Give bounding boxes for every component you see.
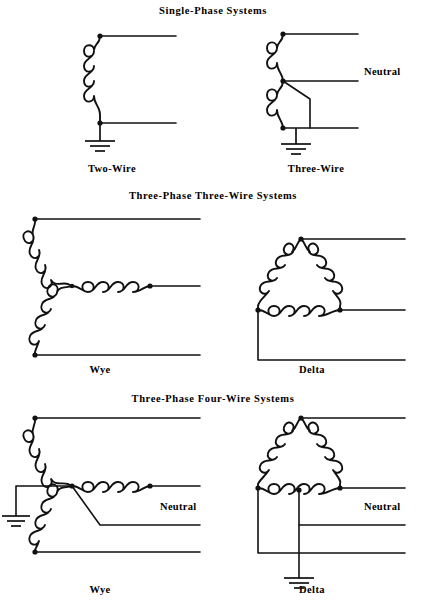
diagram-delta-three-wire (255, 236, 405, 360)
coil-winding-lower-left (29, 484, 72, 552)
label-neutral-single-phase: Neutral (364, 66, 401, 77)
caption-wye-three-wire: Wye (60, 364, 140, 375)
caption-delta-three-wire: Delta (272, 364, 352, 375)
coil-winding-upper-left (23, 219, 72, 288)
label-neutral-delta-four-wire: Neutral (364, 501, 401, 512)
schematic-artwork (0, 0, 426, 615)
coil-winding-right-side (301, 239, 342, 310)
diagram-three-wire (267, 31, 358, 154)
terminal-dot-line2 (147, 283, 152, 288)
terminal-dot-apex (298, 236, 303, 241)
terminal-dot-left-vertex (255, 307, 260, 312)
section-title-three-phase-four-wire: Three-Phase Four-Wire Systems (0, 393, 426, 404)
diagram-wye-three-wire (23, 216, 200, 357)
coil-winding-left-side (258, 418, 301, 488)
terminal-dot-right-vertex (337, 307, 342, 312)
label-neutral-wye-four-wire: Neutral (160, 501, 197, 512)
terminal-dot-top (97, 33, 102, 38)
terminal-dot-neutral-center (69, 483, 74, 488)
coil-winding-lower (267, 81, 283, 128)
wire-line-3 (258, 488, 405, 553)
coil-winding-left-side (258, 239, 301, 310)
diagram-sheet: Single-Phase Systems Three-Phase Three-W… (0, 0, 426, 615)
coil-winding-right (72, 482, 150, 492)
terminal-dot-neutral-center (70, 284, 74, 288)
terminal-dot-right-vertex (337, 485, 342, 490)
caption-wye-four-wire: Wye (60, 584, 140, 595)
caption-delta-four-wire: Delta (272, 584, 352, 595)
coil-winding-bottom-side (258, 484, 340, 494)
coil-winding-right-side (301, 418, 342, 488)
diagram-two-wire (84, 33, 176, 151)
terminal-dot-line1 (32, 415, 37, 420)
coil-winding-bottom-side (258, 306, 340, 316)
diagram-wye-four-wire (2, 415, 200, 554)
terminal-dot-top (280, 31, 285, 36)
terminal-dot-bottom (280, 125, 285, 130)
caption-two-wire: Two-Wire (72, 163, 152, 174)
terminal-dot-line2 (147, 483, 152, 488)
terminal-dot-centertap (280, 78, 285, 83)
terminal-dot-line1 (32, 216, 37, 221)
section-title-three-phase-three-wire: Three-Phase Three-Wire Systems (0, 190, 426, 201)
terminal-dot-centertap (296, 487, 301, 492)
coil-winding-lower-left (29, 284, 72, 355)
terminal-dot-apex (298, 415, 303, 420)
terminal-dot-bottom (97, 120, 102, 125)
coil-winding-right (72, 282, 150, 292)
coil-winding-vertical (84, 36, 100, 123)
wire-line-3 (258, 310, 405, 360)
section-title-single-phase: Single-Phase Systems (0, 5, 426, 16)
terminal-dot-left-vertex (255, 485, 260, 490)
wire-ground-tap (283, 81, 310, 128)
caption-three-wire: Three-Wire (276, 163, 356, 174)
wire-ground-branch (16, 486, 72, 516)
terminal-dot-line3 (32, 549, 37, 554)
terminal-dot-line3 (32, 352, 37, 357)
coil-winding-upper (267, 34, 283, 81)
coil-winding-upper-left (23, 418, 72, 487)
